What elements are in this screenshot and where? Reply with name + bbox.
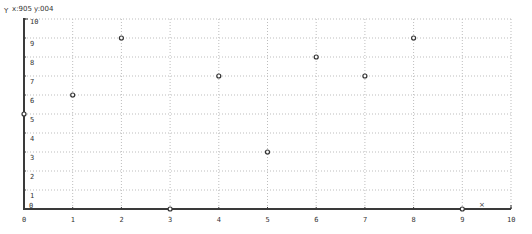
x-tick-label: 7 [363, 216, 367, 224]
data-point[interactable] [22, 112, 26, 116]
data-point[interactable] [314, 55, 318, 59]
x-axis-marker: × [479, 201, 485, 209]
y-axis-name: Y [3, 7, 9, 15]
data-point[interactable] [71, 93, 75, 97]
y-tick-label: 1 [30, 192, 34, 200]
x-tick-label: 4 [217, 216, 221, 224]
x-tick-label: 8 [412, 216, 416, 224]
data-point[interactable] [266, 150, 270, 154]
data-point[interactable] [119, 36, 123, 40]
coordinate-readout: x:905 y:004 [12, 5, 54, 13]
grid-lines [24, 19, 511, 209]
chart-canvas[interactable]: 012345678910012345678910 Y x:905 y:004 × [0, 0, 532, 234]
data-point[interactable] [168, 207, 172, 211]
y-tick-label: 3 [30, 154, 34, 162]
data-point[interactable] [460, 207, 464, 211]
data-point[interactable] [217, 74, 221, 78]
y-tick-label: 6 [30, 97, 34, 105]
x-tick-label: 1 [71, 216, 75, 224]
tick-labels: 012345678910012345678910 [22, 18, 515, 224]
y-tick-label: 4 [30, 135, 34, 143]
y-tick-label: 5 [30, 116, 34, 124]
x-tick-label: 3 [168, 216, 172, 224]
x-tick-label: 0 [22, 216, 26, 224]
x-tick-label: 5 [266, 216, 270, 224]
x-tick-label: 6 [314, 216, 318, 224]
y-tick-label: 8 [30, 59, 34, 67]
y-tick-label: 2 [30, 173, 34, 181]
y-tick-label: 7 [30, 78, 34, 86]
data-points [22, 36, 464, 211]
x-tick-label: 9 [460, 216, 464, 224]
y-tick-label: 9 [30, 40, 34, 48]
x-tick-label: 2 [119, 216, 123, 224]
data-point[interactable] [412, 36, 416, 40]
y-tick-label: 10 [30, 18, 38, 26]
y-tick-label: 0 [29, 202, 33, 210]
data-point[interactable] [363, 74, 367, 78]
x-tick-label: 10 [507, 216, 515, 224]
